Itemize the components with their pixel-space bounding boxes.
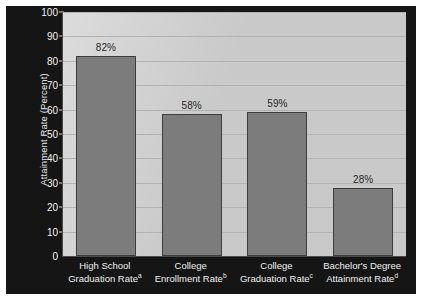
y-tick-label: 80 <box>47 55 58 66</box>
bar-slot: 58% <box>162 12 222 256</box>
footnote-marker: a <box>138 271 142 278</box>
x-tick-label-line2: Graduation Ratec <box>234 273 320 286</box>
x-tick-label-line2: Enrollment Rateb <box>148 273 234 286</box>
footnote-marker: c <box>310 271 313 278</box>
bar-slot: 28% <box>333 12 393 256</box>
x-tick-label-line1: High School <box>62 260 148 273</box>
y-tick-label: 50 <box>47 129 58 140</box>
y-tick-label: 90 <box>47 31 58 42</box>
bar-series: 82%58%59%28% <box>63 12 406 256</box>
x-tick-label: CollegeGraduation Ratec <box>234 260 320 285</box>
x-tick-label-line1: College <box>148 260 234 273</box>
bar-value-label: 82% <box>96 42 116 53</box>
x-tick-label-line1: Bachelor's Degree <box>319 260 405 273</box>
y-tick-label: 60 <box>47 104 58 115</box>
x-axis: High SchoolGraduation RateaCollegeEnroll… <box>62 260 405 292</box>
x-tick-label: CollegeEnrollment Rateb <box>148 260 234 285</box>
x-tick-label-line1: College <box>234 260 320 273</box>
x-tick-label: High SchoolGraduation Ratea <box>62 260 148 285</box>
bar-value-label: 59% <box>267 98 287 109</box>
y-tick-label: 70 <box>47 80 58 91</box>
bar-value-label: 58% <box>182 100 202 111</box>
bar[interactable] <box>76 56 136 256</box>
x-tick-label: Bachelor's DegreeAttainment Rated <box>319 260 405 285</box>
chart-panel: Attainment Rate (Percent) 01020304050607… <box>6 6 416 294</box>
y-axis: 0102030405060708090100 <box>20 12 64 256</box>
y-tick-label: 10 <box>47 226 58 237</box>
footnote-marker: b <box>223 271 227 278</box>
bar[interactable] <box>247 112 307 256</box>
y-tick-label: 100 <box>41 7 58 18</box>
bar-slot: 82% <box>76 12 136 256</box>
footnote-marker: d <box>394 271 398 278</box>
bar[interactable] <box>162 114 222 256</box>
x-tick-label-line2: Graduation Ratea <box>62 273 148 286</box>
y-tick-label: 30 <box>47 177 58 188</box>
y-tick-label: 40 <box>47 153 58 164</box>
x-tick-label-line2: Attainment Rated <box>319 273 405 286</box>
bar-value-label: 28% <box>353 174 373 185</box>
y-tick-label: 20 <box>47 202 58 213</box>
y-tick-label: 0 <box>52 251 58 262</box>
chart-figure: Attainment Rate (Percent) 01020304050607… <box>0 0 422 302</box>
bar[interactable] <box>333 188 393 256</box>
bar-slot: 59% <box>247 12 307 256</box>
plot-area: 82%58%59%28% <box>62 12 406 257</box>
